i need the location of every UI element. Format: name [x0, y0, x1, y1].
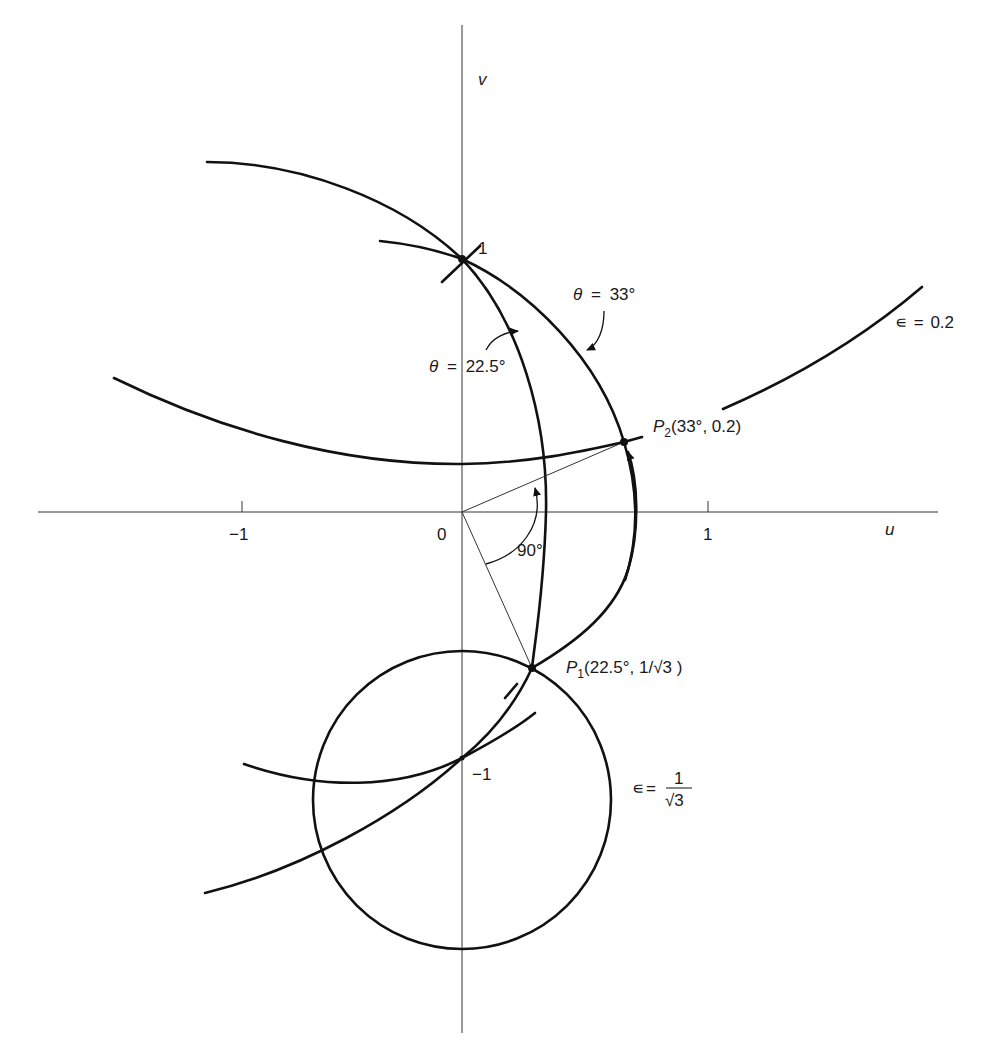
point-p1 [528, 664, 536, 672]
v-axis-label: v [478, 70, 488, 89]
conformal-map-diagram: v u 0 −1 1 1 −1 90° θ = 33° θ = 22.5° [0, 0, 983, 1061]
v-tick-label-pos1: 1 [478, 239, 487, 258]
u-axis-label: u [885, 520, 895, 539]
eps-0-2-curve-right [723, 287, 922, 409]
point-v-neg1 [460, 756, 465, 761]
p2-label: P2(33°, 0.2) [653, 417, 741, 440]
p1-to-p2-path [532, 452, 636, 668]
p1-label: P1(22.5°, 1/√3 ) [566, 658, 682, 681]
origin-label: 0 [437, 525, 446, 544]
svg-text:=: = [646, 779, 656, 798]
eps-0-2-curve-left [114, 378, 642, 464]
point-p2 [620, 438, 628, 446]
theta-33-label: θ = 33° [573, 285, 635, 304]
u-tick-label-neg1: −1 [229, 525, 248, 544]
v-tick-label-neg1: −1 [472, 765, 491, 784]
theta-33-leader [587, 311, 604, 350]
p1-cross [505, 684, 517, 698]
svg-text:∊: ∊ [632, 779, 644, 798]
svg-text:1: 1 [674, 769, 683, 788]
eps-1-sqrt3-label: ∊ = 1 √3 [632, 769, 692, 810]
radius-to-p1 [462, 512, 532, 668]
eps-0-2-label: ∊ = 0.2 [895, 313, 954, 332]
u-tick-label-pos1: 1 [703, 525, 712, 544]
svg-text:√3: √3 [665, 791, 684, 810]
theta-22-5-curve [205, 162, 546, 893]
angle-label: 90° [517, 541, 543, 560]
theta-22-5-label: θ = 22.5° [429, 357, 506, 376]
point-v-1 [458, 255, 466, 263]
